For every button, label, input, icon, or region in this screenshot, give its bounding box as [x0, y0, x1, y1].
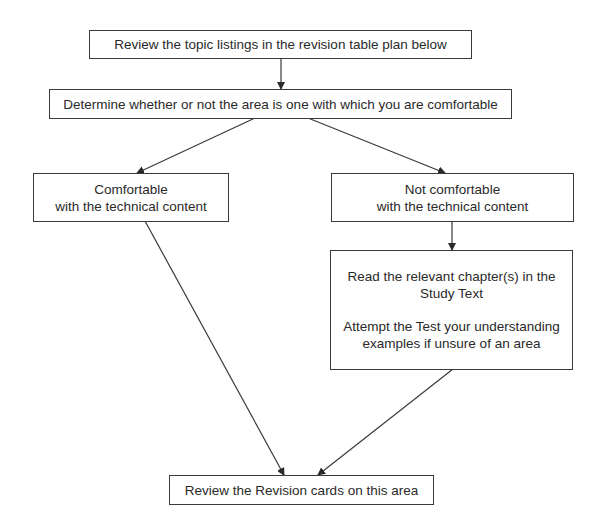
node-text: Review the Revision cards on this area	[185, 482, 418, 499]
node-determine: Determine whether or not the area is one…	[49, 89, 512, 119]
arrow-comfortable-to-review-cards	[145, 221, 284, 475]
node-not-comfortable: Not comfortable with the technical conte…	[331, 173, 574, 222]
node-text: Review the topic listings in the revisio…	[114, 36, 446, 53]
node-text: Read the relevant chapter(s) in the	[348, 268, 556, 285]
node-read-chapters: Read the relevant chapter(s) in the Stud…	[330, 250, 573, 370]
node-review-cards: Review the Revision cards on this area	[169, 475, 434, 505]
node-text: Comfortable	[94, 181, 168, 198]
node-text: with the technical content	[377, 198, 529, 215]
node-text: Attempt the Test your understanding	[343, 318, 560, 335]
node-text: Determine whether or not the area is one…	[63, 96, 497, 113]
node-text: with the technical content	[55, 198, 207, 215]
arrow-determine-to-comfortable	[137, 118, 255, 173]
node-text: examples if unsure of an area	[363, 335, 541, 352]
arrow-read-to-review-cards	[318, 369, 453, 475]
arrow-determine-to-not-comfortable	[308, 118, 445, 173]
node-comfortable: Comfortable with the technical content	[33, 173, 229, 222]
node-review-topics: Review the topic listings in the revisio…	[89, 30, 472, 59]
node-text: Not comfortable	[405, 181, 500, 198]
node-text: Study Text	[420, 285, 483, 302]
flowchart: Review the topic listings in the revisio…	[0, 0, 603, 532]
